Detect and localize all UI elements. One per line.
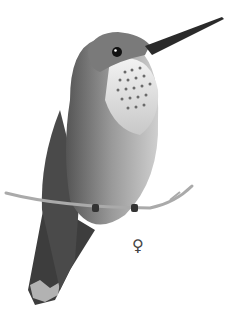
female-symbol: ♀	[132, 238, 144, 254]
hummingbird-illustration	[0, 0, 225, 318]
bill	[145, 17, 224, 55]
eye	[112, 47, 122, 57]
